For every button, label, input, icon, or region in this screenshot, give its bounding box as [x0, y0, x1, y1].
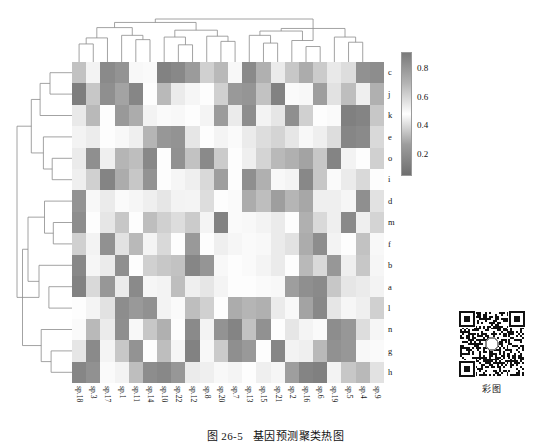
heatmap-cell: [72, 362, 86, 383]
heatmap-cell: [356, 62, 370, 83]
heatmap-cell: [256, 83, 270, 104]
heatmap-cell: [242, 105, 256, 126]
heatmap-cell: [157, 62, 171, 83]
heatmap-cell: [285, 233, 299, 254]
heatmap-cell: [242, 340, 256, 361]
heatmap-cell: [100, 190, 114, 211]
heatmap-cell: [129, 233, 143, 254]
dendrogram-link: [28, 217, 45, 281]
qr-code-icon[interactable]: [460, 312, 524, 376]
heatmap-cell: [271, 297, 285, 318]
heatmap-cell: [115, 212, 129, 233]
heatmap-cell: [72, 255, 86, 276]
column-label-sp-6: sp.6: [313, 385, 327, 423]
heatmap-cell: [100, 105, 114, 126]
heatmap-cell: [200, 340, 214, 361]
heatmap-cell: [157, 190, 171, 211]
row-label-e: e: [386, 126, 402, 147]
heatmap-cell: [313, 255, 327, 276]
heatmap-cell: [185, 126, 199, 147]
heatmap-cell: [285, 319, 299, 340]
heatmap-cell: [185, 255, 199, 276]
heatmap-cell: [356, 276, 370, 297]
heatmap-matrix[interactable]: [72, 62, 384, 383]
dendrogram-link: [49, 287, 72, 308]
heatmap-cell: [100, 126, 114, 147]
heatmap-cell: [214, 340, 228, 361]
heatmap-cell: [129, 212, 143, 233]
heatmap-cell: [327, 233, 341, 254]
heatmap-cell: [200, 297, 214, 318]
column-label-sp-19: sp.19: [327, 385, 341, 423]
heatmap-cell: [242, 255, 256, 276]
heatmap-cell: [86, 83, 100, 104]
heatmap-cell: [285, 126, 299, 147]
heatmap-cell: [341, 319, 355, 340]
column-dendrogram-svg: [72, 16, 384, 62]
heatmap-cell: [143, 255, 157, 276]
heatmap-cell: [86, 212, 100, 233]
heatmap-cell: [214, 212, 228, 233]
column-label-axis: sp.18sp.3sp.17sp.1sp.11sp.14sp.10sp.22sp…: [72, 385, 384, 423]
heatmap-cell: [143, 105, 157, 126]
row-label-n: n: [386, 319, 402, 340]
heatmap-cell: [143, 212, 157, 233]
row-label-d: d: [386, 190, 402, 211]
column-label-sp-4: sp.4: [356, 385, 370, 423]
heatmap-cell: [313, 126, 327, 147]
heatmap-cell: [256, 276, 270, 297]
heatmap-cell: [72, 276, 86, 297]
heatmap-cell: [299, 340, 313, 361]
heatmap-cell: [100, 255, 114, 276]
row-label-axis: cjkeoidmfbalngh: [386, 62, 402, 383]
heatmap-cell: [200, 105, 214, 126]
heatmap-cell: [271, 319, 285, 340]
heatmap-cell: [370, 105, 384, 126]
heatmap-cell: [242, 276, 256, 297]
column-label-sp-17: sp.17: [100, 385, 114, 423]
heatmap-cell: [327, 362, 341, 383]
heatmap-cell: [185, 319, 199, 340]
heatmap-cell: [143, 148, 157, 169]
dendrogram-link: [17, 126, 31, 297]
heatmap-cell: [271, 362, 285, 383]
heatmap-cell: [271, 105, 285, 126]
heatmap-cell: [285, 255, 299, 276]
row-label-h: h: [386, 362, 402, 383]
heatmap-cell: [285, 340, 299, 361]
heatmap-cell: [285, 83, 299, 104]
heatmap-cell: [86, 169, 100, 190]
heatmap-cell: [157, 169, 171, 190]
heatmap-cell: [327, 255, 341, 276]
heatmap-cell: [86, 148, 100, 169]
heatmap-cell: [143, 319, 157, 340]
heatmap-cell: [327, 190, 341, 211]
heatmap-cell: [200, 169, 214, 190]
colorbar-gradient: [401, 52, 412, 176]
heatmap-cell: [129, 62, 143, 83]
heatmap-cell: [341, 190, 355, 211]
heatmap-cell: [129, 362, 143, 383]
heatmap-cell: [214, 62, 228, 83]
heatmap-cell: [370, 255, 384, 276]
row-label-j: j: [386, 83, 402, 104]
heatmap-cell: [214, 190, 228, 211]
heatmap-cell: [356, 212, 370, 233]
heatmap-cell: [313, 297, 327, 318]
heatmap-cell: [214, 362, 228, 383]
heatmap-cell: [100, 319, 114, 340]
heatmap-cell: [356, 83, 370, 104]
heatmap-cell: [171, 319, 185, 340]
heatmap-cell: [356, 297, 370, 318]
column-label-sp-5: sp.5: [341, 385, 355, 423]
heatmap-cell: [327, 297, 341, 318]
heatmap-cell: [242, 190, 256, 211]
heatmap-cell: [228, 276, 242, 297]
heatmap-cell: [115, 126, 129, 147]
column-label-sp-8: sp.8: [200, 385, 214, 423]
heatmap-cell: [171, 190, 185, 211]
heatmap-cell: [370, 83, 384, 104]
heatmap-cell: [171, 126, 185, 147]
heatmap-cell: [313, 362, 327, 383]
heatmap-cell: [185, 148, 199, 169]
